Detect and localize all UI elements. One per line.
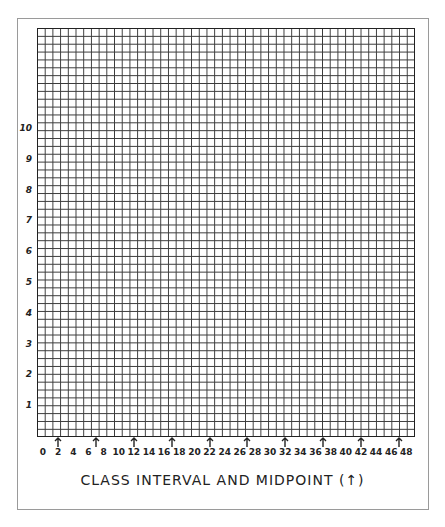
- y-tick-label: 8: [12, 185, 32, 195]
- x-tick-label: 28: [249, 447, 262, 457]
- y-tick-label: 9: [12, 154, 32, 164]
- up-arrow-icon: [356, 437, 365, 447]
- x-tick-label: 4: [70, 447, 76, 457]
- x-tick-label: 40: [340, 447, 353, 457]
- x-tick-label: 34: [294, 447, 307, 457]
- x-tick-label: 22: [203, 447, 216, 457]
- x-tick-label: 0: [40, 447, 46, 457]
- x-tick-label: 18: [173, 447, 186, 457]
- y-tick-label: 2: [12, 369, 32, 379]
- y-tick-label: 5: [12, 277, 32, 287]
- up-arrow-icon: [54, 437, 63, 447]
- x-tick-label: 32: [279, 447, 292, 457]
- up-arrow-icon: [394, 437, 403, 447]
- x-tick-label: 14: [143, 447, 156, 457]
- up-arrow-icon: [319, 437, 328, 447]
- x-tick-label: 2: [55, 447, 61, 457]
- x-axis-title: CLASS INTERVAL AND MIDPOINT (↑): [0, 472, 445, 488]
- y-tick-label: 3: [12, 339, 32, 349]
- up-arrow-icon: [281, 437, 290, 447]
- x-tick-label: 42: [355, 447, 368, 457]
- y-tick-label: 4: [12, 308, 32, 318]
- x-tick-label: 10: [112, 447, 125, 457]
- y-tick-label: 1: [12, 400, 32, 410]
- up-arrow-icon: [91, 437, 100, 447]
- x-tick-label: 24: [218, 447, 231, 457]
- x-tick-label: 6: [85, 447, 91, 457]
- y-tick-label: 7: [12, 215, 32, 225]
- x-tick-label: 12: [128, 447, 141, 457]
- x-tick-label: 16: [158, 447, 171, 457]
- up-arrow-icon: [243, 437, 252, 447]
- up-arrow-icon: [129, 437, 138, 447]
- graph-paper-grid: [37, 28, 415, 437]
- x-tick-label: 30: [264, 447, 277, 457]
- y-tick-label: 10: [12, 123, 32, 133]
- x-tick-label: 48: [400, 447, 413, 457]
- up-arrow-icon: [167, 437, 176, 447]
- x-tick-label: 36: [309, 447, 322, 457]
- x-tick-label: 38: [324, 447, 337, 457]
- up-arrow-icon: [205, 437, 214, 447]
- x-tick-label: 46: [385, 447, 398, 457]
- y-tick-label: 6: [12, 246, 32, 256]
- x-tick-label: 26: [234, 447, 247, 457]
- x-tick-label: 8: [100, 447, 106, 457]
- x-tick-label: 20: [188, 447, 201, 457]
- x-tick-label: 44: [370, 447, 383, 457]
